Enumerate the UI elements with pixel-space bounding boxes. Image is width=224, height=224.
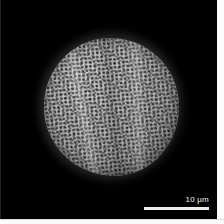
exine-pit-texture-primary: [36, 30, 187, 183]
page-margin-right: [217, 0, 224, 224]
micrograph-viewport: 10 µm: [0, 0, 224, 224]
scale-bar: 10 µm: [144, 195, 209, 210]
sem-image-canvas: 10 µm: [0, 0, 217, 219]
median-furrow-shadow: [97, 30, 127, 183]
colpus-ridge-right: [125, 30, 148, 181]
exine-muri-highlight-texture: [36, 30, 187, 183]
page-margin-bottom: [0, 219, 224, 224]
exine-lumina-texture: [36, 30, 187, 183]
specimen-body: [36, 30, 187, 183]
exine-pit-texture-secondary: [36, 30, 187, 183]
specimen-edge-vignette: [36, 30, 187, 183]
scale-bar-line: [144, 207, 209, 210]
scale-bar-label: 10 µm: [144, 195, 209, 204]
colpus-ridge-left: [59, 33, 104, 183]
sem-noise-overlay: [36, 30, 187, 183]
pollen-grain-specimen: [44, 38, 179, 176]
frame-edge-line: [0, 0, 1, 219]
